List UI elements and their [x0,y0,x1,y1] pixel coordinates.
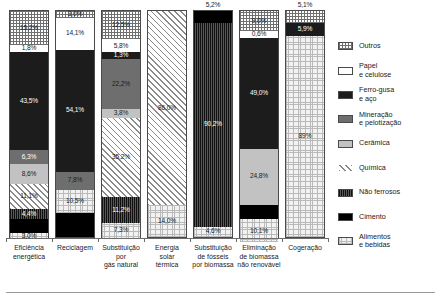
legend-label: Cimento [359,213,386,222]
bar-segment-quimica[interactable]: 35,2% [102,118,140,198]
segment-value-label: 35,2% [112,154,130,161]
bar-segment-outros[interactable]: 3,0% [56,11,94,18]
segment-value-label: 4,6% [206,228,221,235]
bar-column: 3,0%14,1%54,1%7,8%10,5% [52,10,98,238]
legend-item-miner[interactable]: Mineraçãoe pelotização [338,107,438,131]
legend-label: Não ferrosos [359,188,400,197]
bar-segment-alim[interactable]: 7,3% [102,223,140,239]
footer-divider [6,292,435,293]
stacked-bar[interactable]: 12,5%5,8%1,3%22,2%3,8%35,2%11,2%7,3% [101,10,141,238]
segment-value-label: 14,1% [66,30,84,37]
segment-value-label: 54,1% [66,107,84,114]
category-label: Substituiçãode fósseispor biomassa [190,244,236,286]
stacked-bar[interactable]: 5,1%5,9%89% [285,10,325,238]
segment-value-label: 3,0% [68,11,83,18]
stacked-bar[interactable]: 86,0%14,0% [147,10,187,238]
segment-value-label: 15,2% [20,25,38,32]
bar-column: 12,5%5,8%1,3%22,2%3,8%35,2%11,2%7,3% [98,10,144,238]
legend-item-ceramica[interactable]: Cerâmica [338,132,438,156]
legend-label: Mineraçãoe pelotização [359,111,401,128]
category-label: Substituiçãoporgás natural [98,244,144,286]
legend-swatch-ceramica-icon [338,140,353,148]
bar-segment-cimento[interactable] [56,213,94,237]
bar-segment-outros[interactable]: 5,1% [286,11,324,23]
stacked-bar[interactable]: 9,0%0,6%49,0%24,8%10,1% [239,10,279,238]
segment-value-label: 0,6% [252,31,267,38]
bar-segment-ferro[interactable]: 43,5% [10,52,48,150]
x-axis-tick [282,238,283,242]
segment-value-label: 4,4% [22,211,37,218]
bar-segment-ceramica[interactable]: 24,8% [240,149,278,205]
bar-segment-ferro[interactable]: 54,1% [56,50,94,172]
category-label: Eficiênciaenergética [6,244,52,286]
bar-segment-naoferr[interactable]: 4,4% [10,209,48,219]
chart-root: 15,2%1,8%43,5%6,3%8,6%11,1%4,4%3,0%3,0%1… [0,0,441,300]
bar-segment-naoferr[interactable]: 11,2% [102,197,140,222]
legend-label: Ferro-gusae aço [359,86,394,103]
bar-segment-alim[interactable]: 4,6% [194,227,232,237]
bar-segment-quimica[interactable]: 86,0% [148,11,186,205]
bar-segment-naoferr[interactable]: 90,2% [194,23,232,227]
legend-swatch-miner-icon [338,115,353,123]
stacked-bar[interactable]: 15,2%1,8%43,5%6,3%8,6%11,1%4,4%3,0% [9,10,49,238]
bar-segment-papel[interactable]: 14,1% [56,18,94,50]
segment-value-label: 5,1% [298,2,313,9]
bar-segment-ferro[interactable]: 49,0% [240,38,278,149]
x-axis-tick [98,238,99,242]
bar-segment-alim[interactable]: 14,0% [148,205,186,237]
stacked-bar[interactable]: 5,2%90,2%4,6% [193,10,233,238]
bar-segment-miner[interactable]: 7,8% [56,172,94,190]
x-axis-tick [144,238,145,242]
segment-value-label: 49,0% [250,90,268,97]
bar-segment-alim[interactable]: 89% [286,36,324,237]
bar-segment-ceramica[interactable]: 8,6% [10,164,48,183]
legend-item-alim[interactable]: Alimentose bebidas [338,229,438,253]
bar-segment-papel[interactable]: 1,8% [10,45,48,52]
segment-value-label: 86,0% [158,105,176,112]
legend-label: Cerâmica [359,139,390,148]
bar-column: 15,2%1,8%43,5%6,3%8,6%11,1%4,4%3,0% [6,10,52,238]
bar-segment-miner[interactable]: 6,3% [10,150,48,164]
legend-label: Outros [359,42,381,51]
stacked-bar[interactable]: 3,0%14,1%54,1%7,8%10,5% [55,10,95,238]
legend-swatch-papel-icon [338,67,353,75]
segment-value-label: 11,1% [20,193,38,200]
x-axis-tick [190,238,191,242]
legend-label: Alimentose bebidas [359,233,391,250]
segment-value-label: 11,2% [112,207,130,214]
bar-segment-quimica[interactable]: 11,1% [10,184,48,209]
bar-segment-cimento[interactable] [10,219,48,233]
legend-label: Papele celulose [359,62,391,79]
segment-value-label: 7,3% [114,227,129,234]
bar-segment-cimento[interactable]: 5,2% [194,11,232,23]
bar-segment-miner[interactable]: 22,2% [102,59,140,109]
category-label: Cogeração [282,244,328,286]
legend-swatch-alim-icon [338,237,353,245]
x-axis-tick [328,238,329,242]
segment-value-label: 5,8% [114,43,129,50]
bar-segment-ferro[interactable]: 1,3% [102,52,140,59]
bar-column: 5,2%90,2%4,6% [190,10,236,238]
bar-segment-alim[interactable]: 10,5% [56,190,94,214]
legend-item-outros[interactable]: Outros [338,34,438,58]
bar-segment-papel[interactable]: 0,6% [240,31,278,38]
legend-item-ferro[interactable]: Ferro-gusae aço [338,83,438,107]
legend-label: Química [359,164,386,173]
segment-value-label: 6,3% [22,154,37,161]
segment-value-label: 24,8% [250,173,268,180]
legend-swatch-quimica-icon [338,164,353,172]
legend-item-cimento[interactable]: Cimento [338,205,438,229]
segment-value-label: 12,5% [112,22,130,29]
bar-segment-outros[interactable]: 9,0% [240,11,278,31]
bar-segment-outros[interactable]: 12,5% [102,11,140,39]
bar-segment-ceramica[interactable]: 3,8% [102,109,140,118]
legend-item-quimica[interactable]: Química [338,156,438,180]
segment-value-label: 3,8% [114,110,129,117]
bar-segment-ferro[interactable]: 5,9% [286,23,324,36]
bar-segment-cimento[interactable] [240,205,278,220]
bar-segment-outros[interactable]: 15,2% [10,11,48,45]
segment-value-label: 8,6% [22,171,37,178]
legend-item-papel[interactable]: Papele celulose [338,58,438,82]
chart-legend: OutrosPapele celuloseFerro-gusae açoMine… [338,34,438,254]
legend-item-naoferr[interactable]: Não ferrosos [338,180,438,204]
